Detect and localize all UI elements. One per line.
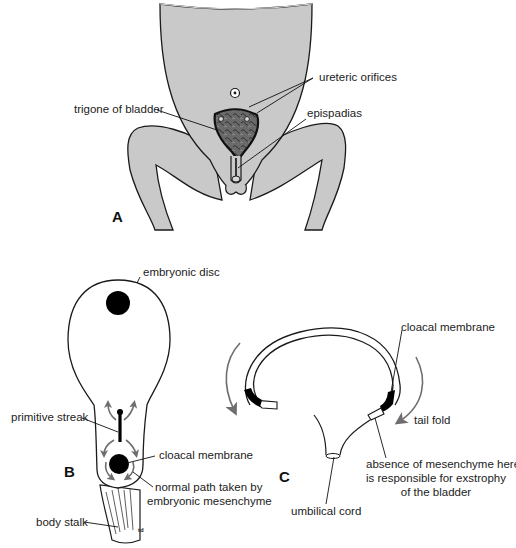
panel-label-a: A [112,208,123,225]
scrotum [226,185,247,194]
label-tail-fold: tail fold [414,414,450,427]
label-umbilical-cord: umbilical cord [291,505,361,518]
panel-label-c: C [279,468,290,485]
artist-signature: td [138,524,144,537]
panel-label-b: B [64,463,75,480]
label-epispadias: epispadias [307,107,362,120]
ureteric-orifice-left [219,117,224,122]
label-mesenchyme-path-2: embryonic mesenchyme [147,495,272,508]
label-cloacal-membrane-c: cloacal membrane [401,321,495,334]
cloacal-membrane-c [380,390,395,412]
head-fold-arrow [226,343,240,410]
label-absence-line-3: of the bladder [366,486,506,499]
mesenchyme-absent-region [368,408,384,420]
ureteric-orifice-right [245,117,250,122]
tail-fold-arrow [400,357,423,421]
label-absence-line-1: absence of mesenchyme here [366,458,506,471]
label-cloacal-membrane-b: cloacal membrane [159,449,253,462]
label-embryonic-disc: embryonic disc [143,266,220,279]
label-absence-line-2: is responsible for exstrophy [366,472,506,485]
label-primitive-streak: primitive streak [11,411,88,424]
label-trigone-of-bladder: trigone of bladder [74,103,164,116]
label-ureteric-orifices: ureteric orifices [319,71,397,84]
embryo-arc-inner [254,335,393,402]
body-stalk-shape [100,485,140,543]
embryo-arc-outer [245,328,400,405]
label-body-stalk: body stalk [36,516,88,529]
cloacal-membrane-b [109,454,129,474]
label-mesenchyme-path-1: normal path taken by [155,481,262,494]
prochordal-plate [106,291,130,315]
umbilical-cord-shape [314,415,370,455]
